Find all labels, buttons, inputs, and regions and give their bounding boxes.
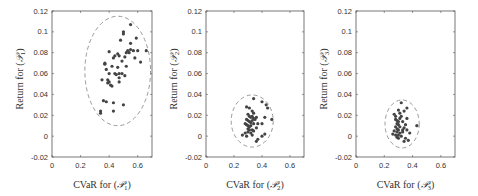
y-tick-label: 0.12 xyxy=(337,7,352,16)
x-tick-label: 0 xyxy=(50,161,54,170)
data-point xyxy=(106,81,109,84)
data-point xyxy=(260,100,263,103)
data-point xyxy=(401,130,404,133)
y-tick-label: 0.12 xyxy=(33,7,48,16)
data-point xyxy=(401,120,404,123)
x-tick-label: 0.2 xyxy=(229,161,239,170)
data-point xyxy=(415,124,418,127)
y-tick-label: 0 xyxy=(348,132,352,141)
y-tick-label: -0.02 xyxy=(31,153,48,162)
data-point xyxy=(251,119,254,122)
data-point xyxy=(123,74,126,77)
data-point xyxy=(266,106,269,109)
data-point xyxy=(105,68,108,71)
data-point xyxy=(265,103,268,106)
data-point xyxy=(398,125,401,128)
subplot-p1: 00.20.40.6-0.0200.020.040.060.080.10.12C… xyxy=(14,7,152,193)
data-point xyxy=(402,140,405,143)
data-point xyxy=(394,115,397,118)
data-point xyxy=(404,137,407,140)
data-point xyxy=(398,112,401,115)
y-tick-label: 0.04 xyxy=(337,90,352,99)
data-point xyxy=(252,122,255,125)
y-tick-label: 0.06 xyxy=(337,69,352,78)
data-point xyxy=(245,135,248,138)
subplot-p3: 00.20.40.6-0.0200.020.040.060.080.10.12C… xyxy=(318,7,455,193)
data-point xyxy=(252,112,255,115)
confidence-ellipse xyxy=(85,16,151,126)
x-tick-label: 0 xyxy=(204,161,208,170)
data-point xyxy=(129,23,132,26)
data-point xyxy=(116,66,119,69)
data-point xyxy=(248,106,251,109)
data-point xyxy=(133,56,136,59)
data-point xyxy=(120,72,123,75)
data-point xyxy=(118,76,121,79)
y-tick-label: 0.1 xyxy=(38,27,48,36)
data-point xyxy=(128,51,131,54)
data-point xyxy=(393,129,396,132)
x-tick-label: 0 xyxy=(354,161,358,170)
data-point xyxy=(129,48,132,51)
data-point xyxy=(122,32,125,35)
x-tick-label: 0.2 xyxy=(379,161,389,170)
data-point xyxy=(255,140,258,143)
y-tick-label: 0.02 xyxy=(187,111,202,120)
data-point xyxy=(244,131,247,134)
x-tick-label: 0.2 xyxy=(75,161,85,170)
data-point xyxy=(100,78,103,81)
x-tick-label: 0.4 xyxy=(104,161,114,170)
axes-frame xyxy=(52,11,152,157)
data-point xyxy=(405,117,408,120)
x-tick-label: 0.6 xyxy=(436,161,446,170)
y-axis-label: Return for (𝒫1) xyxy=(14,48,27,109)
y-axis-label: Return for (𝒫2) xyxy=(168,48,181,109)
data-point xyxy=(118,54,121,57)
y-tick-label: 0 xyxy=(44,132,48,141)
data-point xyxy=(395,130,398,133)
subplot-p2: 00.20.40.6-0.0200.020.040.060.080.10.12C… xyxy=(168,7,304,193)
data-point xyxy=(251,134,254,137)
data-point xyxy=(255,126,258,129)
y-tick-label: 0.04 xyxy=(187,90,202,99)
data-point xyxy=(400,101,403,104)
axes-frame xyxy=(206,11,304,157)
data-point xyxy=(136,49,139,52)
data-point xyxy=(99,112,102,115)
data-point xyxy=(112,110,115,113)
data-point xyxy=(260,135,263,138)
y-tick-label: 0.1 xyxy=(192,27,202,36)
data-point xyxy=(118,80,121,83)
data-point xyxy=(145,49,148,52)
y-tick-label: 0.08 xyxy=(187,48,202,57)
data-point xyxy=(125,51,128,54)
data-point xyxy=(391,132,394,135)
data-point xyxy=(108,72,111,75)
data-point xyxy=(112,101,115,104)
data-point xyxy=(400,135,403,138)
data-point xyxy=(270,118,273,121)
y-tick-label: 0 xyxy=(198,132,202,141)
y-tick-label: 0.02 xyxy=(33,111,48,120)
data-point xyxy=(405,106,408,109)
data-point xyxy=(404,123,407,126)
data-point xyxy=(110,84,113,87)
data-point xyxy=(132,49,135,52)
data-point xyxy=(115,73,118,76)
y-tick-label: 0.08 xyxy=(337,48,352,57)
data-point xyxy=(246,130,249,133)
data-point xyxy=(397,137,400,140)
x-tick-label: 0.4 xyxy=(407,161,417,170)
data-point xyxy=(129,42,132,45)
data-point xyxy=(105,100,108,103)
data-point xyxy=(397,108,400,111)
y-tick-label: 0.06 xyxy=(33,69,48,78)
data-point xyxy=(255,116,258,119)
y-tick-label: 0.12 xyxy=(187,7,202,16)
x-axis-label: CVaR for (𝒫3) xyxy=(377,179,435,192)
data-point xyxy=(123,55,126,58)
figure: 00.20.40.6-0.0200.020.040.060.080.10.12C… xyxy=(0,0,478,196)
x-tick-label: 0.6 xyxy=(285,161,295,170)
data-point xyxy=(118,72,121,75)
data-point xyxy=(110,65,113,68)
